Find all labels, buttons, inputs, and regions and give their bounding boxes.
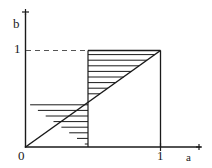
x-axis-arrow-icon	[196, 144, 202, 150]
diagonal-line	[26, 51, 161, 148]
x-tick-label-one: 1	[157, 149, 164, 162]
diagram-canvas	[0, 0, 212, 168]
origin-tick-label-zero: 0	[18, 149, 25, 162]
upper-right-hatched-region	[88, 55, 155, 94]
y-axis-label: b	[13, 17, 20, 30]
figure-container: b 1 0 1 a	[0, 0, 212, 168]
y-axis-arrow-icon	[22, 9, 29, 15]
x-axis-label: a	[186, 152, 191, 163]
y-tick-label-one: 1	[14, 42, 21, 55]
